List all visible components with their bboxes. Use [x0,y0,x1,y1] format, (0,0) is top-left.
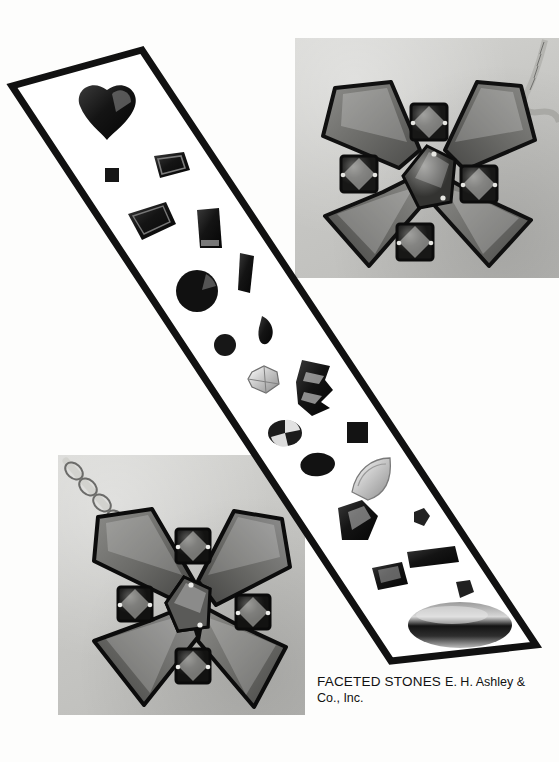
stone-round-small [214,334,236,356]
diagonal-stone-strip [0,0,559,762]
caption-line-1: FACETED STONES E. H. Ashley & [317,672,542,690]
stone-round-large [176,270,218,312]
caption: FACETED STONES E. H. Ashley & Co., Inc. [317,672,542,705]
caption-title: FACETED STONES [317,674,441,689]
caption-company-line-1: E. H. Ashley & [445,675,525,689]
stone-square-step [347,422,368,443]
stone-square-small [105,168,119,182]
caption-company-line-2: Co., Inc. [317,691,542,705]
strip-outline [12,50,536,661]
catalog-page: FACETED STONES E. H. Ashley & Co., Inc. [0,0,559,762]
